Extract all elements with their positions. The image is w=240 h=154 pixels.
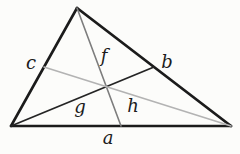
label-g: g (74, 96, 86, 117)
triangle-medians-diagram: cfbgha (0, 0, 240, 154)
label-c: c (26, 52, 36, 73)
label-h: h (127, 95, 139, 116)
label-b: b (161, 51, 173, 72)
label-f: f (99, 45, 111, 66)
triangle-medians-figure: cfbgha (0, 0, 240, 154)
label-a: a (103, 127, 114, 148)
